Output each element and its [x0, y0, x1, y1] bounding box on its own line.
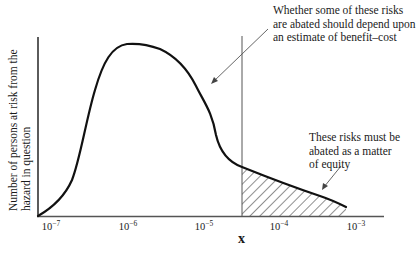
benefit-cost-arrow: [213, 29, 268, 82]
annotation-line: an estimate of benefit–cost: [273, 31, 415, 45]
tick-exponent: −4: [280, 219, 288, 228]
benefit-cost-annotation: Whether some of these risks are abated s…: [273, 4, 415, 45]
annotation-line: Whether some of these risks: [273, 4, 415, 18]
tick-base: 10: [347, 221, 358, 232]
x-tick-1e-7: 10−7: [42, 219, 60, 232]
risk-curve: [38, 44, 346, 216]
x-tick-1e-4: 10−4: [270, 219, 288, 232]
equity-annotation: These risks must be abated as a matter o…: [309, 131, 400, 172]
tick-base: 10: [195, 221, 206, 232]
annotation-line: of equity: [309, 158, 400, 172]
tick-base: 10: [42, 221, 53, 232]
y-axis-label: Number of persons at risk from the hazar…: [7, 41, 32, 211]
y-axis-label-line-2: hazard in question: [19, 41, 32, 211]
tick-exponent: −7: [52, 219, 60, 228]
tick-base: 10: [119, 221, 130, 232]
y-axis-label-line-1: Number of persons at risk from the: [7, 41, 20, 211]
x-tick-1e-6: 10−6: [119, 219, 137, 232]
tick-exponent: −5: [205, 219, 213, 228]
annotation-line: abated as a matter: [309, 145, 400, 159]
tick-base: 10: [270, 221, 281, 232]
x-axis-label: x: [238, 231, 245, 247]
arrowhead-icon: [322, 183, 328, 190]
annotation-line: These risks must be: [309, 131, 400, 145]
annotation-line: are abated should depend upon: [273, 18, 415, 32]
x-tick-1e-3: 10−3: [347, 219, 365, 232]
tick-exponent: −6: [129, 219, 137, 228]
tick-exponent: −3: [357, 219, 365, 228]
x-tick-1e-5: 10−5: [195, 219, 213, 232]
